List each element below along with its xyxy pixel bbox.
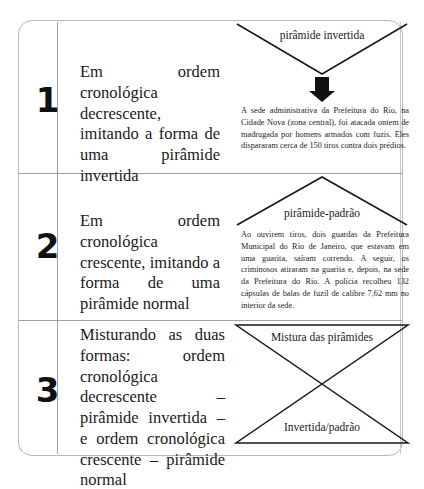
down-arrow-icon xyxy=(225,77,419,107)
row-diagram-column: pirâmide invertida A sede administrativa… xyxy=(225,21,419,173)
row-body-text: Ao ouvirem tiros, dois guardas da Prefei… xyxy=(241,229,409,311)
row-number: 2 xyxy=(19,229,76,263)
row-diagram-column: pirâmide-padrão Ao ouvirem tiros, dois g… xyxy=(225,174,419,320)
row-number: 3 xyxy=(19,373,76,407)
diagram-label-top: Mistura das pirâmides xyxy=(225,331,419,344)
row-statement: Em ordem cronológica decrescente, imitan… xyxy=(80,62,220,187)
row-statement: Misturando as duas formas: ordem cronoló… xyxy=(80,325,225,489)
table-row: 2 Em ordem cronológica crescente, imitan… xyxy=(19,174,402,320)
row-number: 1 xyxy=(19,83,76,117)
table-row: 3 Misturando as duas formas: ordem crono… xyxy=(19,321,402,455)
diagram-label: pirâmide-padrão xyxy=(225,207,419,220)
row-diagram-column: Mistura das pirâmides Invertida/padrão xyxy=(225,321,419,455)
row-statement: Em ordem cronológica crescente, imitando… xyxy=(80,211,220,315)
diagram-label: pirâmide invertida xyxy=(225,29,419,42)
row-body-text: A sede administrativa da Prefeitura do R… xyxy=(241,105,409,152)
diagram-label-bottom: Invertida/padrão xyxy=(225,421,419,434)
table-row: 1 Em ordem cronológica decrescente, imit… xyxy=(19,21,402,173)
